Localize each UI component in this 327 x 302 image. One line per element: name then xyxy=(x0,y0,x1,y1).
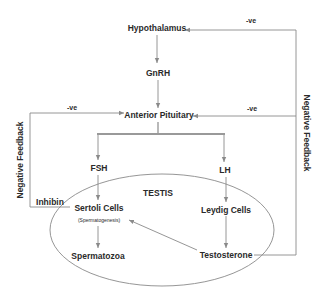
hpg-axis-diagram: Hypothalamus GnRH Anterior Pituitary FSH… xyxy=(0,0,327,302)
label-neg-left: -ve xyxy=(67,104,77,111)
node-spermatozoa: Spermatozoa xyxy=(71,252,124,261)
node-gnrh: GnRH xyxy=(146,69,170,78)
node-lh: LH xyxy=(219,166,230,175)
label-neg-right: -ve xyxy=(247,105,257,112)
label-negative-feedback-left: Negative Feedback xyxy=(16,121,25,198)
label-neg-top: -ve xyxy=(246,17,256,24)
node-leydig-cells: Leydig Cells xyxy=(201,206,251,215)
node-anterior-pituitary: Anterior Pituitary xyxy=(124,111,193,120)
node-inhibin: Inhibin xyxy=(36,198,64,207)
feedback-inhibin-pituitary xyxy=(30,113,124,207)
node-hypothalamus: Hypothalamus xyxy=(128,24,187,33)
node-testosterone: Testosterone xyxy=(200,251,253,260)
node-fsh: FSH xyxy=(91,164,108,173)
label-negative-feedback-right: Negative Feedback xyxy=(303,94,312,171)
arrow-testosterone-sertoli xyxy=(129,220,197,250)
node-spermatogenesis: (Spermatogenesis) xyxy=(78,218,120,223)
diagram-connectors xyxy=(0,0,327,302)
node-sertoli-cells: Sertoli Cells xyxy=(74,204,123,213)
feedback-testosterone-hypothalamus xyxy=(185,30,296,255)
node-testis: TESTIS xyxy=(143,189,173,198)
